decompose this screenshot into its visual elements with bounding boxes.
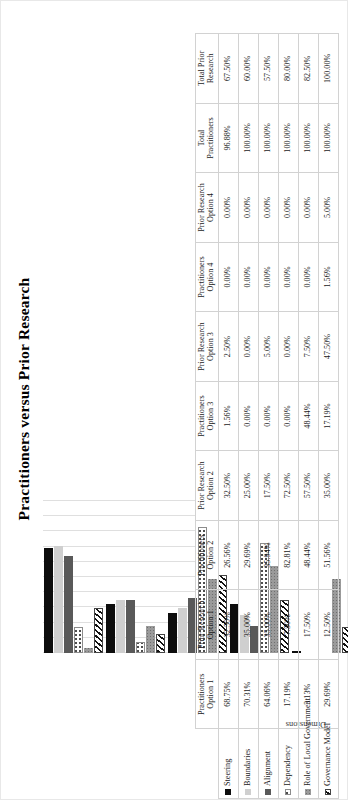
- column-header-3: Prior ResearchOption 2: [196, 451, 219, 521]
- bar-group-1: [105, 33, 167, 653]
- cell-r1-c1: 35.00%: [239, 590, 259, 660]
- table-row: Boundaries70.31%35.00%29.69%25.00%0.00%0…: [239, 34, 259, 799]
- cell-r3-c4: 0.00%: [279, 381, 299, 451]
- cell-r1-c6: 0.00%: [239, 242, 259, 312]
- cell-r2-c4: 0.00%: [259, 381, 279, 451]
- plot-area: [43, 33, 195, 653]
- legend-swatch-icon: [225, 789, 231, 795]
- bar-5-1: [156, 634, 165, 653]
- row-label-text: Alignment: [263, 751, 272, 786]
- chart-card: Practitioners versus Prior Research Dime…: [0, 0, 348, 800]
- cell-r5-c8: 100.00%: [319, 103, 339, 173]
- bar-2-1: [126, 600, 135, 653]
- table-row: Alignment64.06%35.00%35.94%17.50%0.00%5.…: [259, 34, 279, 799]
- cell-r2-c3: 17.50%: [259, 451, 279, 521]
- bar-0-2: [168, 613, 177, 653]
- cell-r1-c3: 25.00%: [239, 451, 259, 521]
- column-header-1: Prior ResearchOption 1: [196, 590, 219, 660]
- column-header-bottom: Research: [207, 36, 216, 101]
- figure-frame: Practitioners versus Prior Research Dime…: [0, 0, 348, 800]
- bar-2-0: [64, 556, 73, 653]
- cell-r2-c2: 35.94%: [259, 520, 279, 590]
- cell-r1-c2: 29.69%: [239, 520, 259, 590]
- cell-r4-c5: 7.50%: [299, 312, 319, 382]
- cell-r2-c6: 0.00%: [259, 242, 279, 312]
- row-label-2: Alignment: [259, 729, 279, 799]
- cell-r4-c4: 48.44%: [299, 381, 319, 451]
- cell-r0-c4: 1.56%: [219, 381, 239, 451]
- cell-r4-c9: 82.50%: [299, 34, 319, 104]
- column-header-bottom: Option 2: [207, 523, 216, 588]
- cell-r4-c7: 0.00%: [299, 173, 319, 243]
- cell-r0-c1: 32.50%: [219, 590, 239, 660]
- cell-r1-c4: 0.00%: [239, 381, 259, 451]
- row-label-text: Boundaries: [243, 749, 252, 786]
- cell-r1-c9: 60.00%: [239, 34, 259, 104]
- cell-r2-c5: 5.00%: [259, 312, 279, 382]
- cell-r3-c6: 0.00%: [279, 242, 299, 312]
- legend-swatch-icon: [305, 789, 311, 795]
- cell-r0-c5: 2.50%: [219, 312, 239, 382]
- cell-r5-c5: 47.50%: [319, 312, 339, 382]
- cell-r2-c1: 35.00%: [259, 590, 279, 660]
- row-label-text: Role of Local Government: [303, 698, 312, 786]
- cell-r3-c7: 0.00%: [279, 173, 299, 243]
- column-header-bottom: Option 1: [207, 662, 216, 727]
- cell-r2-c7: 0.00%: [259, 173, 279, 243]
- row-label-text: Steering: [223, 759, 232, 786]
- bar-5-0: [94, 608, 103, 653]
- row-label-1: Boundaries: [239, 729, 259, 799]
- bar-5-4: [342, 627, 348, 653]
- cell-r5-c4: 17.19%: [319, 381, 339, 451]
- bar-4-1: [146, 626, 155, 653]
- cell-r5-c7: 5.00%: [319, 173, 339, 243]
- cell-r3-c0: 17.19%: [279, 659, 299, 729]
- cell-r0-c0: 68.75%: [219, 659, 239, 729]
- row-label-0: Steering: [219, 729, 239, 799]
- column-header-9: Total PriorResearch: [196, 34, 219, 104]
- bar-1-0: [54, 546, 63, 653]
- cell-r5-c9: 100.00%: [319, 34, 339, 104]
- row-label-4: Role of Local Government: [299, 729, 319, 799]
- table-header: PractitionersOption 1Prior ResearchOptio…: [196, 34, 219, 799]
- legend-swatch-icon: [265, 789, 271, 795]
- bar-3-1: [136, 642, 145, 653]
- bar-1-2: [178, 608, 187, 653]
- cell-r0-c8: 96.88%: [219, 103, 239, 173]
- table-row: Governance Model29.69%12.50%51.56%35.00%…: [319, 34, 339, 799]
- cell-r0-c9: 67.50%: [219, 34, 239, 104]
- column-header-7: Prior ResearchOption 4: [196, 173, 219, 243]
- data-table: PractitionersOption 1Prior ResearchOptio…: [195, 33, 339, 799]
- cell-r5-c6: 1.56%: [319, 242, 339, 312]
- row-label-text: Dependency: [283, 745, 292, 786]
- row-label-5: Governance Model: [319, 729, 339, 799]
- cell-r1-c8: 100.00%: [239, 103, 259, 173]
- row-label-3: Dependency: [279, 729, 299, 799]
- column-header-bottom: Option 1: [207, 592, 216, 657]
- cell-r4-c1: 17.50%: [299, 590, 319, 660]
- table-row: Steering68.75%32.50%26.56%32.50%1.56%2.5…: [219, 34, 239, 799]
- table-header-row: PractitionersOption 1Prior ResearchOptio…: [196, 34, 219, 799]
- legend-swatch-icon: [325, 789, 331, 795]
- cell-r5-c1: 12.50%: [319, 590, 339, 660]
- bar-0-0: [44, 549, 53, 654]
- cell-r3-c1: 7.50%: [279, 590, 299, 660]
- legend-swatch-icon: [245, 789, 251, 795]
- cell-r1-c5: 0.00%: [239, 312, 259, 382]
- bar-4-0: [84, 648, 93, 653]
- cell-r1-c0: 70.31%: [239, 659, 259, 729]
- column-header-bottom: Option 3: [207, 384, 216, 449]
- cell-r5-c2: 51.56%: [319, 520, 339, 590]
- column-header-bottom: Option 2: [207, 453, 216, 518]
- cell-r3-c8: 100.00%: [279, 103, 299, 173]
- column-header-4: PractitionersOption 3: [196, 381, 219, 451]
- column-header-bottom: Practitioners: [207, 106, 216, 171]
- cell-r3-c9: 80.00%: [279, 34, 299, 104]
- bar-3-0: [74, 627, 83, 653]
- column-header-2: PractitionersOption 2: [196, 520, 219, 590]
- cell-r4-c6: 0.00%: [299, 242, 319, 312]
- cell-r0-c2: 26.56%: [219, 520, 239, 590]
- cell-r5-c3: 35.00%: [319, 451, 339, 521]
- cell-r0-c6: 0.00%: [219, 242, 239, 312]
- rotated-figure-canvas: Practitioners versus Prior Research Dime…: [0, 0, 348, 800]
